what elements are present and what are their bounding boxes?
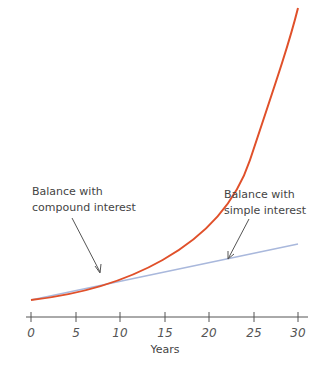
tick-label: 20: [201, 326, 217, 340]
tick-label: 5: [72, 326, 80, 340]
compound-interest-curve: [31, 8, 298, 300]
simple-interest-line: [31, 244, 298, 300]
simple-annotation: Balance with simple interest: [224, 188, 307, 259]
annotation-text: compound interest: [32, 201, 137, 214]
tick-label: 15: [157, 326, 172, 340]
annotation-text: Balance with: [224, 188, 295, 201]
x-axis-title: Years: [149, 343, 179, 356]
x-axis: 0 5 10 15 20 25 30 Years: [26, 312, 308, 356]
chart-canvas: 0 5 10 15 20 25 30 Years Balance with co…: [0, 0, 324, 375]
arrow-icon: [72, 218, 100, 272]
tick-label: 0: [27, 326, 35, 340]
tick-label: 25: [246, 326, 261, 340]
tick-label: 30: [290, 326, 306, 340]
annotation-text: simple interest: [224, 204, 307, 217]
annotation-text: Balance with: [32, 185, 103, 198]
arrow-icon: [228, 219, 249, 259]
compound-annotation: Balance with compound interest: [32, 185, 137, 273]
tick-label: 10: [112, 326, 128, 340]
